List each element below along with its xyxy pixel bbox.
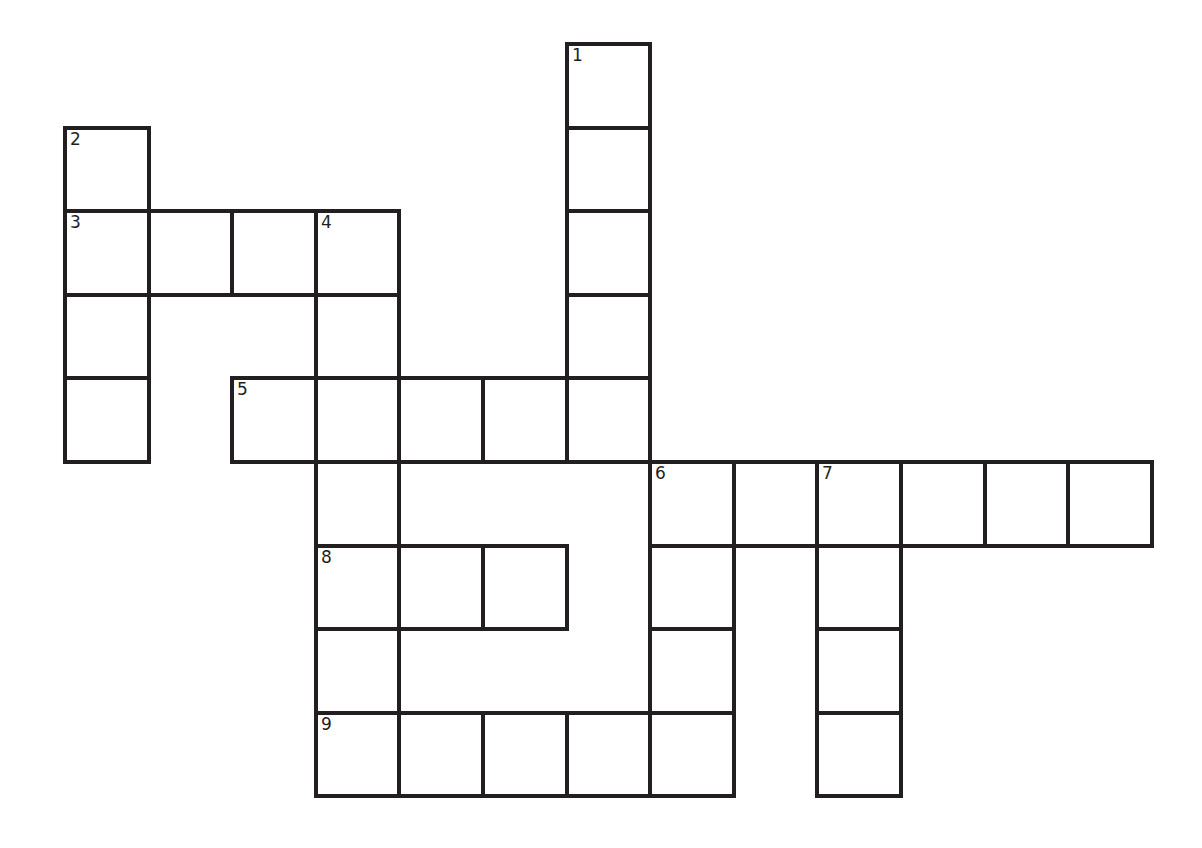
- crossword-cell[interactable]: [63, 376, 151, 464]
- crossword-cell[interactable]: [397, 544, 485, 631]
- clue-number: 6: [655, 465, 666, 482]
- crossword-cell[interactable]: [63, 293, 151, 380]
- clue-number: 3: [70, 214, 81, 231]
- crossword-cell[interactable]: 7: [815, 460, 903, 548]
- crossword-cell[interactable]: 2: [63, 126, 151, 213]
- crossword-cell[interactable]: [230, 209, 318, 297]
- crossword-cell[interactable]: [648, 627, 736, 715]
- crossword-cell[interactable]: [565, 209, 652, 297]
- crossword-cell[interactable]: [481, 376, 569, 464]
- clue-number: 5: [237, 381, 248, 398]
- clue-number: 4: [321, 214, 332, 231]
- crossword-cell[interactable]: [481, 711, 569, 798]
- clue-number: 7: [822, 465, 833, 482]
- crossword-cell[interactable]: [397, 376, 485, 464]
- crossword-cell[interactable]: [314, 627, 401, 715]
- clue-number: 8: [321, 549, 332, 566]
- crossword-cell[interactable]: [983, 460, 1070, 548]
- crossword-cell[interactable]: [565, 376, 652, 464]
- crossword-cell[interactable]: [397, 711, 485, 798]
- crossword-cell[interactable]: [314, 460, 401, 548]
- clue-number: 2: [70, 131, 81, 148]
- crossword-cell[interactable]: [314, 376, 401, 464]
- crossword-grid: 123456789: [0, 0, 1202, 848]
- crossword-cell[interactable]: [565, 126, 652, 213]
- crossword-cell[interactable]: 9: [314, 711, 401, 798]
- crossword-cell[interactable]: [815, 711, 903, 798]
- crossword-cell[interactable]: [481, 544, 569, 631]
- crossword-cell[interactable]: [314, 293, 401, 380]
- crossword-cell[interactable]: [1066, 460, 1154, 548]
- crossword-cell[interactable]: [815, 627, 903, 715]
- crossword-cell[interactable]: 3: [63, 209, 151, 297]
- crossword-cell[interactable]: [565, 293, 652, 380]
- crossword-cell[interactable]: 6: [648, 460, 736, 548]
- clue-number: 9: [321, 716, 332, 733]
- crossword-cell[interactable]: 5: [230, 376, 318, 464]
- crossword-cell[interactable]: [147, 209, 234, 297]
- crossword-cell[interactable]: 4: [314, 209, 401, 297]
- clue-number: 1: [572, 47, 583, 64]
- crossword-cell[interactable]: [815, 544, 903, 631]
- crossword-cell[interactable]: [648, 711, 736, 798]
- crossword-cell[interactable]: [732, 460, 819, 548]
- crossword-cell[interactable]: [565, 711, 652, 798]
- crossword-cell[interactable]: [648, 544, 736, 631]
- crossword-cell[interactable]: 8: [314, 544, 401, 631]
- crossword-cell[interactable]: 1: [565, 42, 652, 130]
- crossword-cell[interactable]: [899, 460, 987, 548]
